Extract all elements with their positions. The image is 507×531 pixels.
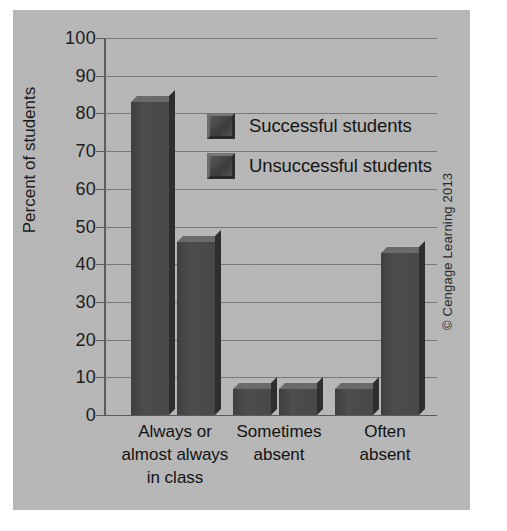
gridline-100 (105, 38, 437, 39)
legend-label-successful: Successful students (249, 115, 412, 137)
y-tick-label-100: 100 (34, 28, 96, 49)
category-label-line: absent (320, 443, 450, 466)
y-tick-label-50: 50 (34, 216, 96, 237)
legend-item-successful: Successful students (207, 110, 432, 142)
x-axis-category-labels: Always or almost always in class Sometim… (105, 420, 437, 505)
legend: Successful students Unsuccessful student… (207, 110, 432, 190)
y-tick-label-10: 10 (34, 367, 96, 388)
y-axis-tick (96, 151, 105, 152)
legend-label-unsuccessful: Unsuccessful students (249, 155, 432, 177)
copyright-credit: © Cengage Learning 2013 (440, 173, 455, 330)
legend-item-unsuccessful: Unsuccessful students (207, 150, 432, 182)
gridline-90 (105, 76, 437, 77)
y-tick-label-20: 20 (34, 329, 96, 350)
y-axis-tick (96, 38, 105, 39)
y-tick-label-40: 40 (34, 254, 96, 275)
y-axis-tick (96, 302, 105, 303)
bar-successful-always (131, 102, 169, 415)
y-axis-tick (96, 227, 105, 228)
y-tick-label-80: 80 (34, 103, 96, 124)
plot-area (105, 38, 437, 415)
y-axis-title: Percent of students (20, 70, 40, 250)
y-tick-label-0: 0 (34, 405, 96, 426)
category-label-line: Often (320, 420, 450, 443)
y-axis-tick (96, 113, 105, 114)
y-axis-tick (96, 264, 105, 265)
bar-unsuccessful-sometimes (279, 389, 317, 415)
y-tick-label-90: 90 (34, 65, 96, 86)
bar-successful-often (335, 389, 373, 415)
bar-successful-sometimes (233, 389, 271, 415)
y-axis-tick (96, 415, 105, 416)
category-label-often: Often absent (320, 420, 450, 466)
legend-swatch-icon (207, 113, 235, 139)
bar-unsuccessful-always (177, 242, 215, 415)
y-axis-tick (96, 340, 105, 341)
y-axis-tick (96, 377, 105, 378)
y-axis-tick (96, 76, 105, 77)
bar-unsuccessful-often (381, 253, 419, 415)
y-tick-label-70: 70 (34, 141, 96, 162)
category-label-line: in class (95, 466, 255, 489)
bar-side-face (169, 90, 175, 415)
bar-side-face (215, 230, 221, 415)
figure: 100 90 80 70 60 50 40 30 20 10 0 Percent… (0, 0, 507, 531)
y-tick-label-60: 60 (34, 178, 96, 199)
bar-side-face (317, 377, 323, 415)
y-axis-tick (96, 189, 105, 190)
bar-side-face (373, 377, 379, 415)
bar-side-face (271, 377, 277, 415)
legend-swatch-icon (207, 153, 235, 179)
y-tick-label-30: 30 (34, 291, 96, 312)
bar-side-face (419, 241, 425, 415)
